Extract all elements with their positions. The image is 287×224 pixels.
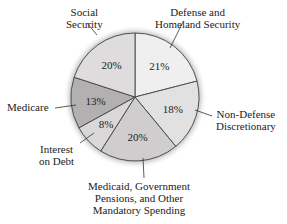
label-line: Defense and [155,6,240,18]
slice-percent: 21% [149,60,169,72]
label-line: on Debt [39,155,74,167]
label-social-security: Social Security [66,6,103,30]
label-line: Security [66,18,103,30]
slice-percent: 13% [85,95,105,107]
slice-percent: 20% [127,131,147,143]
label-medicare: Medicare [7,101,49,113]
label-interest: Interest on Debt [39,143,74,167]
slice-percent: 18% [163,103,183,115]
label-medicaid: Medicaid, Government Pensions, and Other… [88,180,190,216]
label-line: Medicare [7,101,49,113]
label-line: Non-Defense [216,108,276,120]
slice-percent: 20% [102,59,122,71]
slice-percent: 8% [99,118,114,130]
label-line: Discretionary [216,120,276,132]
label-line: Mandatory Spending [88,204,190,216]
label-line: Pensions, and Other [88,192,190,204]
label-line: Homeland Security [155,18,240,30]
label-non-defense: Non-Defense Discretionary [216,108,276,132]
label-defense: Defense and Homeland Security [155,6,240,30]
label-line: Medicaid, Government [88,180,190,192]
label-line: Social [66,6,103,18]
label-line: Interest [39,143,74,155]
